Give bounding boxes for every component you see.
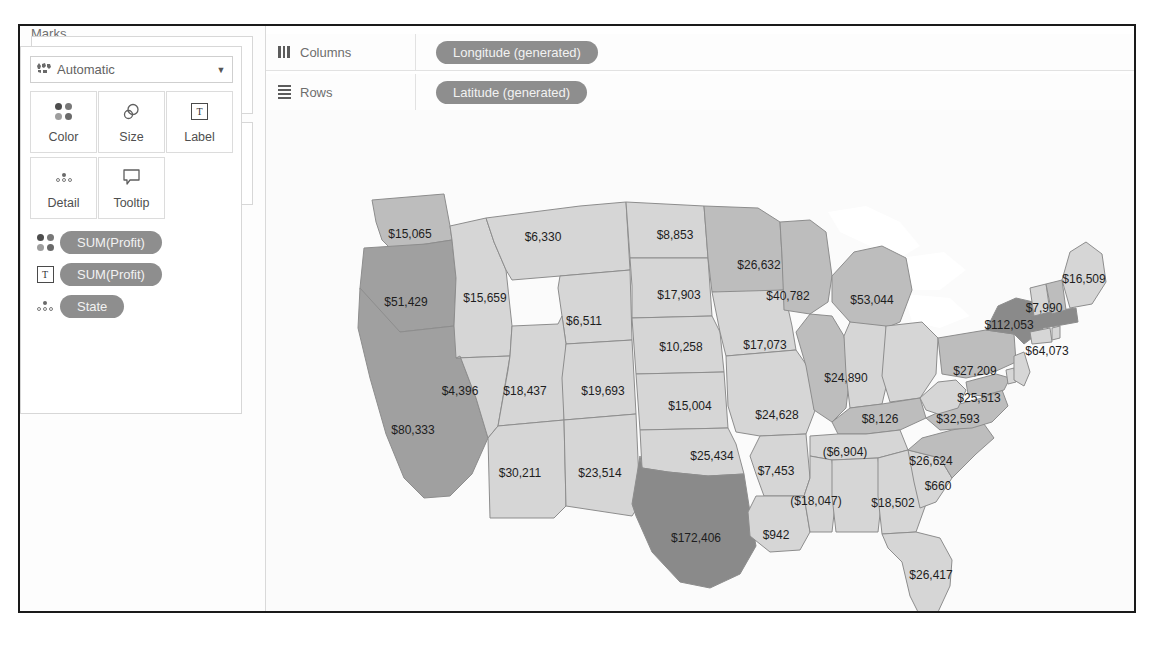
chevron-down-icon[interactable]: ▼ [210,65,232,75]
size-circles-icon [122,101,142,123]
tooltip-bubble-icon [122,167,141,189]
state-value-label: $24,628 [755,408,799,422]
state-value-label: $4,396 [442,384,479,398]
mark-type-label: Automatic [57,62,210,77]
label-encoding-button[interactable]: T Label [166,91,233,153]
state-value-label: $64,073 [1025,344,1069,358]
state-shape[interactable] [726,350,816,436]
color-encoding-button[interactable]: Color [30,91,97,153]
state-value-label: $18,437 [503,384,547,398]
state-value-label: $6,511 [566,314,602,328]
color-dots-icon [55,101,72,123]
state-shape[interactable] [558,270,632,344]
tableau-worksheet-frame: Pages Filters Marks Automatic ▼ [18,24,1136,613]
rows-shelf[interactable]: Rows Latitude (generated) [266,74,1134,111]
state-shape[interactable] [564,414,640,516]
map-marks-icon [31,62,57,77]
marks-pill-label-label[interactable]: SUM(Profit) [60,263,162,286]
encoding-row-primary: Color Size [30,91,233,153]
state-value-label: $24,890 [824,371,868,385]
size-encoding-button[interactable]: Size [98,91,165,153]
state-value-label: $17,903 [657,288,701,302]
detail-dots-icon [56,167,72,189]
columns-pill-longitude[interactable]: Longitude (generated) [436,41,598,64]
state-value-label: $32,593 [936,412,980,426]
marks-pill-color[interactable]: SUM(Profit) [30,229,162,255]
marks-sidebar: Pages Filters Marks Automatic ▼ [20,26,266,611]
state-value-label: $19,693 [581,384,625,398]
state-value-label: $26,624 [909,454,953,468]
choropleth-map[interactable]: $15,065$6,330$8,853$26,632$16,509$51,429… [266,110,1134,611]
state-shape[interactable] [632,456,756,588]
color-encoding-label: Color [49,130,79,144]
rows-icon [278,85,300,99]
state-value-label: $7,453 [758,464,795,478]
state-value-label: $27,209 [953,364,997,378]
rows-pill-latitude[interactable]: Latitude (generated) [436,81,587,104]
state-value-label: $53,044 [850,293,894,307]
state-value-label: $15,659 [463,291,507,305]
state-value-label: $80,333 [391,423,435,437]
state-value-label: $26,632 [737,258,781,272]
state-value-label: $16,509 [1062,272,1106,286]
state-value-label: ($18,047) [790,494,841,508]
state-value-label: $10,258 [659,340,703,354]
state-shape[interactable] [562,340,636,420]
state-shape[interactable] [1052,326,1060,340]
columns-shelf-label-group: Columns [266,34,416,70]
label-text-icon: T [191,101,208,123]
state-value-label: $6,330 [525,230,562,244]
marks-pill-detail[interactable]: State [30,293,124,319]
state-value-label: $172,406 [671,531,721,545]
tooltip-encoding-button[interactable]: Tooltip [98,157,165,219]
state-value-label: $15,004 [668,399,712,413]
rows-shelf-label: Rows [300,85,333,100]
state-value-label: $23,514 [578,466,622,480]
state-value-label: $15,065 [388,227,432,241]
marks-card-body: Automatic ▼ Color [20,46,242,414]
detail-encoding-button[interactable]: Detail [30,157,97,219]
marks-pill-detail-label[interactable]: State [60,295,124,318]
state-value-label: $660 [925,479,952,493]
state-value-label: $40,782 [766,289,810,303]
state-value-label: $26,417 [909,568,953,582]
detail-encoding-label: Detail [48,196,80,210]
state-value-label: $17,073 [743,338,787,352]
mark-type-dropdown[interactable]: Automatic ▼ [30,56,233,83]
screenshot-root: Pages Filters Marks Automatic ▼ [0,0,1157,656]
columns-icon [278,46,300,58]
map-viewport[interactable]: $15,065$6,330$8,853$26,632$16,509$51,429… [266,110,1134,611]
tooltip-encoding-label: Tooltip [113,196,149,210]
label-encoding-label: Label [184,130,215,144]
marks-pill-color-label[interactable]: SUM(Profit) [60,231,162,254]
rows-shelf-label-group: Rows [266,74,416,110]
columns-shelf[interactable]: Columns Longitude (generated) [266,34,1134,71]
state-value-label: ($6,904) [823,445,868,459]
state-value-label: $8,853 [657,228,694,242]
state-value-label: $7,990 [1026,301,1063,315]
state-value-label: $30,211 [499,466,542,480]
state-value-label: $51,429 [384,295,428,309]
state-shape[interactable] [832,246,912,332]
state-value-label: $25,513 [957,391,1001,405]
encoding-row-secondary: Detail Tooltip [30,157,165,219]
size-encoding-label: Size [119,130,143,144]
columns-shelf-label: Columns [300,45,351,60]
color-dots-icon [30,234,60,251]
state-value-label: $112,053 [984,318,1033,332]
state-value-label: $942 [763,528,790,542]
state-value-label: $8,126 [862,412,899,426]
marks-pill-label[interactable]: T SUM(Profit) [30,261,162,287]
marks-card: Marks Automatic ▼ [20,26,242,416]
state-value-label: $18,502 [871,496,915,510]
detail-dots-icon [30,301,60,311]
state-shape[interactable] [704,206,784,294]
label-text-icon: T [30,266,60,283]
state-value-label: $25,434 [690,449,734,463]
background-ghost-text [600,8,604,25]
